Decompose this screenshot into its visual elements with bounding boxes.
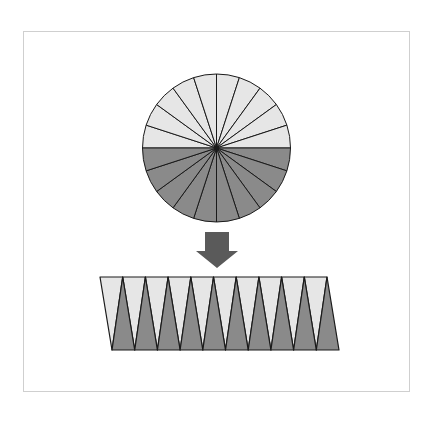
circle-center-dot	[214, 146, 218, 150]
rearranged-strip	[100, 277, 339, 350]
down-arrow-icon	[196, 232, 238, 268]
sectored-circle	[143, 74, 291, 222]
arrow-shape	[196, 232, 238, 268]
circle-rearrangement-diagram	[0, 0, 435, 425]
